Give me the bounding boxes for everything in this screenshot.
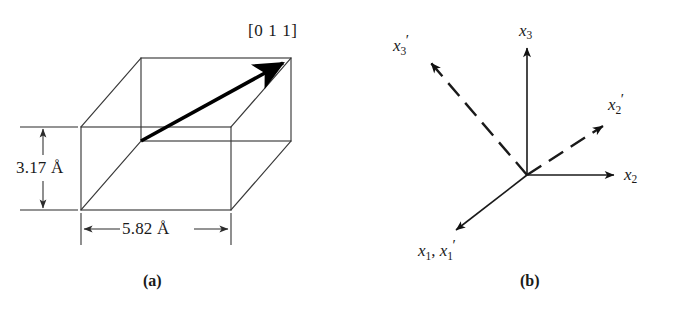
- box-edge-bottom-right: [231, 141, 291, 210]
- primary-axes: [456, 48, 614, 230]
- figure-container: [0 1 1] 3.17 Å 5.82 Å (a): [0, 0, 700, 322]
- axis-x1-x1prime-label: x1, x1′: [418, 238, 456, 262]
- axis-x2-prime-label-main: x: [608, 95, 616, 114]
- axis-x3-label: x3: [519, 22, 532, 42]
- primed-axes: [431, 63, 603, 175]
- box-front-face: [81, 127, 231, 210]
- panel-a: [0 1 1] 3.17 Å 5.82 Å (a): [0, 0, 350, 322]
- axis-x3-prime-label-main: x: [393, 36, 401, 55]
- box-edge-bottom-left: [81, 141, 141, 210]
- axis-x3-prime-label-prime: ′: [406, 32, 409, 48]
- panel-b: x3 x3′ x2′ x2 x1, x1′ (b): [350, 0, 700, 322]
- width-dimension-label: 5.82 Å: [122, 220, 169, 237]
- axis-x2-label: x2: [624, 166, 637, 186]
- box-edge-top-right: [231, 58, 291, 127]
- axis-x1-prime-label-prime: ′: [453, 237, 456, 253]
- axis-x3-prime-label: x3′: [393, 33, 409, 57]
- axis-x2-label-sub: 2: [632, 173, 638, 185]
- direction-vector-011: [141, 63, 283, 141]
- box-edge-top-left: [81, 58, 141, 127]
- unit-cell-box: [81, 58, 291, 210]
- panel-a-caption: (a): [143, 273, 162, 289]
- direction-index-label: [0 1 1]: [248, 22, 298, 39]
- panel-b-caption: (b): [520, 273, 540, 289]
- axis-x1-label-separator: ,: [431, 241, 440, 260]
- axis-x3-prime-line: [431, 63, 527, 175]
- axis-x2-prime-label: x2′: [608, 92, 624, 116]
- axis-x2-label-main: x: [624, 165, 632, 184]
- axis-x1-line: [456, 175, 527, 230]
- axis-x2-prime-line: [527, 126, 603, 175]
- axis-x1-label-main: x: [418, 241, 426, 260]
- axis-x2-prime-label-prime: ′: [621, 91, 624, 107]
- height-dimension-label: 3.17 Å: [16, 159, 63, 176]
- axis-x3-label-sub: 3: [527, 29, 533, 41]
- axis-x3-label-main: x: [519, 21, 527, 40]
